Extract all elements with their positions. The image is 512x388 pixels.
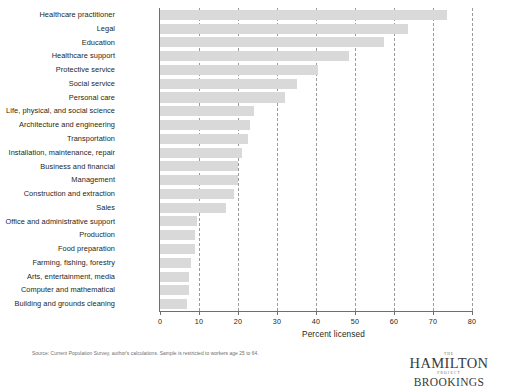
bar [160, 258, 191, 268]
tick-mark-40 [316, 311, 317, 315]
bar [160, 24, 408, 34]
category-label: Installation, maintenance, repair [9, 146, 115, 160]
category-label: Business and financial [40, 160, 115, 174]
bar [160, 216, 197, 226]
tick-mark-70 [433, 311, 434, 315]
category-label: Healthcare support [52, 49, 115, 63]
x-tick-label-10: 10 [195, 317, 203, 326]
category-label: Transportation [67, 132, 115, 146]
bar-row: Personal care [160, 91, 472, 105]
category-label: Management [71, 173, 115, 187]
category-label: Legal [97, 22, 115, 36]
bar [160, 120, 250, 130]
bar [160, 79, 297, 89]
bar-row: Food preparation [160, 242, 472, 256]
bar-row: Construction and extraction [160, 187, 472, 201]
bar [160, 161, 238, 171]
x-tick-label-60: 60 [390, 317, 398, 326]
bar [160, 37, 384, 47]
hamilton-project-brookings-logo: THE HAMILTON PROJECT BROOKINGS [396, 352, 502, 388]
category-label: Construction and extraction [24, 187, 115, 201]
bar-row: Business and financial [160, 160, 472, 174]
category-label: Personal care [69, 91, 115, 105]
tick-mark-50 [355, 311, 356, 315]
category-label: Architecture and engineering [19, 118, 115, 132]
bar [160, 299, 187, 309]
bar [160, 230, 195, 240]
bar [160, 244, 195, 254]
gridline-80 [472, 8, 473, 311]
bar [160, 148, 242, 158]
bar [160, 189, 234, 199]
bar [160, 92, 285, 102]
category-label: Production [79, 228, 115, 242]
tick-mark-20 [238, 311, 239, 315]
category-label: Protective service [56, 63, 115, 77]
x-tick-label-80: 80 [468, 317, 476, 326]
bar-row: Sales [160, 201, 472, 215]
category-label: Arts, entertainment, media [27, 270, 115, 284]
source-note: Source: Current Population Survey, autho… [32, 351, 259, 356]
x-tick-label-0: 0 [158, 317, 162, 326]
category-label: Farming, fishing, forestry [32, 256, 115, 270]
bar [160, 285, 189, 295]
category-label: Social service [69, 77, 115, 91]
category-label: Life, physical, and social science [6, 104, 115, 118]
category-label: Sales [96, 201, 115, 215]
bar-row: Architecture and engineering [160, 118, 472, 132]
bar [160, 175, 238, 185]
bar-row: Healthcare support [160, 49, 472, 63]
x-axis-label-text: Percent licensed [302, 330, 365, 339]
bar-row: Arts, entertainment, media [160, 270, 472, 284]
bar [160, 106, 254, 116]
x-axis-label: Percent licensed [0, 330, 512, 339]
tick-mark-60 [394, 311, 395, 315]
logo-hamilton: HAMILTON [396, 356, 502, 371]
category-label: Building and grounds cleaning [15, 297, 115, 311]
tick-mark-80 [472, 311, 473, 315]
chart-figure: 01020304050607080 Healthcare practitione… [0, 0, 512, 388]
bar-row: Protective service [160, 63, 472, 77]
x-tick-label-20: 20 [234, 317, 242, 326]
bar-row: Building and grounds cleaning [160, 297, 472, 311]
category-label: Food preparation [58, 242, 115, 256]
category-label: Education [82, 36, 115, 50]
bar [160, 65, 318, 75]
bar-row: Life, physical, and social science [160, 104, 472, 118]
bar [160, 272, 189, 282]
bar [160, 51, 349, 61]
bar-row: Production [160, 228, 472, 242]
bar [160, 203, 226, 213]
tick-mark-0 [160, 311, 161, 315]
bar [160, 10, 447, 20]
logo-brookings: BROOKINGS [396, 376, 502, 388]
bar-row: Computer and mathematical [160, 283, 472, 297]
bar-row: Social service [160, 77, 472, 91]
bar-row: Installation, maintenance, repair [160, 146, 472, 160]
bar-row: Office and administrative support [160, 215, 472, 229]
category-label: Healthcare practitioner [39, 8, 115, 22]
x-tick-label-30: 30 [273, 317, 281, 326]
bar-row: Education [160, 36, 472, 50]
tick-mark-30 [277, 311, 278, 315]
x-tick-label-50: 50 [351, 317, 359, 326]
x-tick-label-40: 40 [312, 317, 320, 326]
category-label: Computer and mathematical [21, 283, 115, 297]
bar-row: Management [160, 173, 472, 187]
bar-row: Farming, fishing, forestry [160, 256, 472, 270]
bar [160, 134, 248, 144]
bar-row: Healthcare practitioner [160, 8, 472, 22]
bar-row: Transportation [160, 132, 472, 146]
x-tick-label-70: 70 [429, 317, 437, 326]
category-label: Office and administrative support [5, 215, 115, 229]
bar-row: Legal [160, 22, 472, 36]
tick-mark-10 [199, 311, 200, 315]
